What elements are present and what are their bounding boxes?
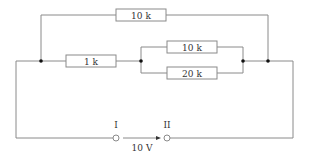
- circuit-svg: 10 k 1 k 10 k 20 k I II 10 V: [0, 0, 309, 154]
- terminal-I-label: I: [114, 120, 118, 130]
- wire-parallel-left: [141, 47, 167, 73]
- node-right: [266, 59, 270, 63]
- terminal-I: [113, 135, 119, 141]
- resistor-parallel-upper-label: 10 k: [182, 43, 202, 53]
- terminal-II-label: II: [163, 120, 171, 130]
- resistor-top-label: 10 k: [131, 11, 151, 21]
- voltage-label: 10 V: [132, 143, 153, 153]
- voltage-arrow-head-icon: [156, 136, 161, 140]
- terminal-II: [164, 135, 170, 141]
- resistor-1k-label: 1 k: [84, 57, 99, 67]
- node-left: [39, 59, 43, 63]
- wires: [16, 15, 293, 138]
- wire-top-left: [41, 15, 116, 61]
- circuit-diagram: 10 k 1 k 10 k 20 k I II 10 V: [0, 0, 309, 154]
- node-parallel-right: [241, 59, 245, 63]
- wire-top-right: [166, 15, 268, 61]
- resistor-parallel-lower-label: 20 k: [182, 69, 202, 79]
- node-parallel-left: [139, 59, 143, 63]
- wire-parallel-right: [217, 47, 243, 73]
